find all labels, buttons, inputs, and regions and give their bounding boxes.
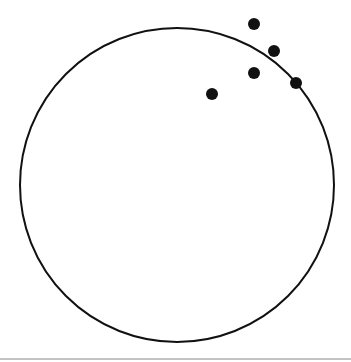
point-4 bbox=[290, 77, 302, 89]
boundary-circle bbox=[20, 28, 334, 342]
point-2 bbox=[268, 45, 280, 57]
points-group bbox=[206, 18, 302, 100]
point-1 bbox=[248, 18, 260, 30]
point-3 bbox=[248, 67, 260, 79]
point-5 bbox=[206, 88, 218, 100]
diagram-canvas bbox=[0, 0, 351, 362]
